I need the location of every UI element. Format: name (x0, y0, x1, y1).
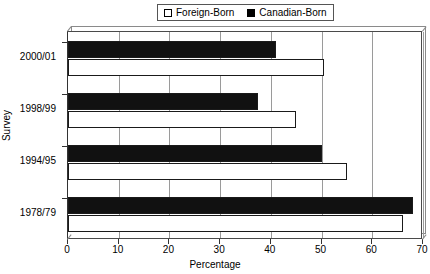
bar-canadian-born-2000-01 (68, 41, 276, 58)
y-tick-2000-01 (62, 42, 67, 43)
bar-foreign-born-1978-79 (68, 215, 403, 232)
y-axis-line (67, 31, 68, 239)
x-axis-title: Percentage (0, 259, 430, 270)
bar-canadian-born-1994-95 (68, 145, 322, 162)
bar-foreign-born-2000-01 (68, 59, 324, 76)
plot-area (67, 31, 422, 239)
x-tick-label-30: 30 (204, 245, 234, 255)
chart-legend: Foreign-Born Canadian-Born (157, 4, 334, 21)
gridline-x-70 (423, 32, 424, 238)
y-tick-1994-95 (62, 146, 67, 147)
y-tick-label-1998-99: 1998/99 (20, 104, 56, 114)
x-tick-label-60: 60 (356, 245, 386, 255)
legend-entry-foreign-born: Foreign-Born (164, 8, 234, 18)
bar-canadian-born-1998-99 (68, 93, 258, 110)
bar-foreign-born-1998-99 (68, 111, 296, 128)
y-tick-1978-79 (62, 198, 67, 199)
x-tick-label-70: 70 (407, 245, 430, 255)
y-tick-label-1978-79: 1978/79 (20, 208, 56, 218)
y-axis-title: Survey (1, 96, 12, 156)
bar-chart: Foreign-Born Canadian-Born 0102030405060… (0, 0, 430, 274)
legend-label-foreign-born: Foreign-Born (176, 8, 234, 18)
legend-entry-canadian-born: Canadian-Born (247, 8, 326, 18)
x-tick-label-20: 20 (153, 245, 183, 255)
open-square-icon (164, 9, 172, 17)
x-tick-label-40: 40 (255, 245, 285, 255)
y-tick-1998-99 (62, 94, 67, 95)
x-tick-label-50: 50 (306, 245, 336, 255)
bar-foreign-born-1994-95 (68, 163, 347, 180)
legend-label-canadian-born: Canadian-Born (259, 8, 326, 18)
y-tick-label-2000-01: 2000/01 (20, 52, 56, 62)
x-tick-label-10: 10 (103, 245, 133, 255)
y-tick-label-1994-95: 1994/95 (20, 156, 56, 166)
filled-square-icon (247, 9, 255, 17)
bar-canadian-born-1978-79 (68, 197, 413, 214)
x-tick-label-0: 0 (52, 245, 82, 255)
